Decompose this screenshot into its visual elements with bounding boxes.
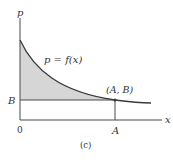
point-a-b [113,98,116,101]
y-axis-label: p [17,7,24,18]
y-tick-label-b: B [7,95,15,106]
figure-caption: (c) [80,140,91,150]
curve-label: p = f(x) [44,54,82,65]
origin-label: 0 [17,125,23,135]
point-label: (A, B) [106,84,134,95]
diagram-figure: p x 0 B A p = f(x) (A, B) (c) [0,0,173,160]
shaded-area [20,40,115,100]
x-tick-label-a: A [111,125,119,136]
x-axis-label: x [165,114,171,125]
